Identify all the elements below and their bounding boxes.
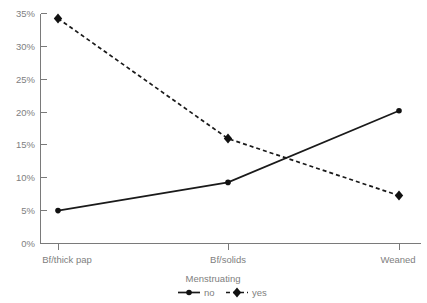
y-axis-ticks — [41, 14, 47, 244]
y-axis-label-10: 10% — [16, 172, 36, 183]
y-axis-label-5: 5% — [21, 205, 35, 216]
y-axis-label-20: 20% — [16, 107, 36, 118]
series-yes-marker-2 — [395, 191, 403, 201]
series-no-marker-1 — [225, 180, 231, 186]
x-axis-label-weaned: Weaned — [380, 254, 415, 265]
y-axis-label-0: 0% — [21, 238, 35, 249]
x-axis-label-bf-solids: Bf/solids — [210, 254, 246, 265]
series-yes-marker-1 — [224, 134, 232, 144]
series-yes-line — [58, 18, 399, 195]
x-axis-label-bf-thick-pap: Bf/thick pap — [42, 254, 92, 265]
legend-swatch-no-marker — [186, 290, 192, 296]
series-no — [55, 108, 402, 214]
y-axis-labels: 35% 30% 25% 20% 15% 10% 5% 0% — [16, 8, 36, 249]
x-axis-labels: Bf/thick pap Bf/solids Weaned — [42, 254, 415, 265]
x-axis-ticks — [59, 244, 400, 250]
y-axis-label-35: 35% — [16, 8, 36, 19]
series-yes — [54, 13, 403, 200]
legend-label-yes: yes — [252, 287, 267, 298]
legend-entry-no[interactable]: no — [178, 287, 215, 298]
legend: Menstruating no yes — [178, 273, 267, 298]
series-no-marker-2 — [396, 108, 402, 114]
legend-entry-yes[interactable]: yes — [226, 287, 267, 298]
series-no-line — [58, 111, 399, 211]
series-yes-marker-0 — [54, 13, 62, 23]
y-axis-label-25: 25% — [16, 74, 36, 85]
legend-title: Menstruating — [186, 273, 241, 284]
y-axis-label-30: 30% — [16, 41, 36, 52]
legend-swatch-yes-marker — [233, 288, 241, 298]
chart-canvas: 35% 30% 25% 20% 15% 10% 5% 0% Bf/thick p… — [0, 0, 427, 303]
line-chart: 35% 30% 25% 20% 15% 10% 5% 0% Bf/thick p… — [0, 0, 427, 303]
legend-label-no: no — [204, 287, 215, 298]
y-axis-label-15: 15% — [16, 139, 36, 150]
series-no-marker-0 — [55, 208, 61, 214]
